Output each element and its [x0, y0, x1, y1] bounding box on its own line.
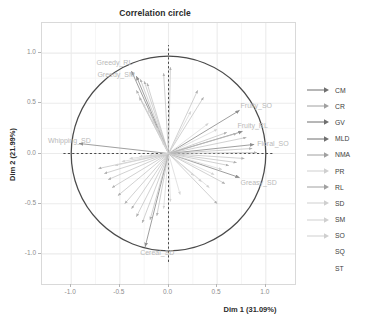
legend-label: PR [330, 168, 344, 175]
x-tick-label: -0.5 [104, 288, 134, 295]
x-tick-label: 0.0 [153, 288, 183, 295]
plot-panel [41, 22, 296, 285]
page-title: Correlation circle [0, 8, 310, 18]
x-tick-label: -1.0 [55, 288, 85, 295]
legend-arrow-icon [306, 198, 330, 208]
vector-arrow [118, 154, 169, 196]
legend-label: RL [330, 184, 344, 191]
vector-arrow [169, 90, 198, 153]
x-tick-mark [168, 284, 169, 287]
legend-item-so[interactable]: SO [306, 228, 384, 244]
legend-label: SO [330, 232, 345, 239]
y-tick-label: 1.0 [10, 48, 36, 55]
legend-arrow-icon [306, 134, 330, 144]
legend-label: MLD [330, 135, 349, 142]
x-tick-label: 1.0 [250, 288, 280, 295]
legend-label: GV [330, 119, 345, 126]
vector-arrow [169, 123, 209, 153]
legend-arrow-icon [306, 150, 330, 160]
y-tick-mark [38, 102, 41, 103]
legend-label: SD [330, 200, 344, 207]
vector-arrow [169, 154, 240, 178]
x-axis-title: Dim 1 (31.09%) [190, 305, 310, 314]
vector-arrow [169, 154, 194, 176]
vector-arrow [104, 154, 168, 174]
legend-item-sq[interactable]: SQ [306, 244, 384, 260]
legend-arrow-icon [306, 101, 330, 111]
y-tick-label: 0.0 [10, 149, 36, 156]
legend-item-pr[interactable]: PR [306, 163, 384, 179]
legend-item-cm[interactable]: CM [306, 82, 384, 98]
legend-label: SM [330, 216, 345, 223]
y-tick-mark [38, 253, 41, 254]
vector-arrow [115, 154, 169, 166]
vector-arrow [79, 143, 169, 153]
legend-label: CR [330, 103, 345, 110]
y-tick-mark [38, 52, 41, 53]
legend-item-cr[interactable]: CR [306, 98, 384, 114]
legend-arrow-icon [306, 215, 330, 225]
y-tick-mark [38, 203, 41, 204]
x-tick-mark [119, 284, 120, 287]
legend-label: CM [330, 87, 346, 94]
y-tick-label: -1.0 [10, 249, 36, 256]
legend-item-st[interactable]: ST [306, 260, 384, 276]
legend-item-nma[interactable]: NMA [306, 147, 384, 163]
y-tick-mark [38, 153, 41, 154]
vector-arrow [142, 154, 168, 223]
legend-label: NMA [330, 151, 350, 158]
x-tick-label: 0.5 [201, 288, 231, 295]
legend-label: ST [330, 265, 344, 272]
vector-arrow [145, 154, 168, 247]
legend-item-mld[interactable]: MLD [306, 131, 384, 147]
legend-arrow-icon [306, 182, 330, 192]
legend-arrow-icon [306, 85, 330, 95]
legend-arrow-icon [306, 231, 330, 241]
legend-item-sd[interactable]: SD [306, 195, 384, 211]
legend-arrow-icon [306, 263, 330, 273]
legend-item-rl[interactable]: RL [306, 179, 384, 195]
x-tick-mark [216, 284, 217, 287]
plot-canvas [42, 23, 295, 284]
legend-label: SQ [330, 248, 345, 255]
y-tick-label: 0.5 [10, 98, 36, 105]
legend: CMCRGVMLDNMAPRRLSDSMSOSQST [306, 82, 384, 276]
legend-item-sm[interactable]: SM [306, 212, 384, 228]
legend-arrow-icon [306, 166, 330, 176]
x-tick-mark [265, 284, 266, 287]
y-tick-label: -0.5 [10, 199, 36, 206]
legend-item-gv[interactable]: GV [306, 114, 384, 130]
vector-arrow [169, 154, 225, 184]
legend-arrow-icon [306, 247, 330, 257]
x-tick-mark [70, 284, 71, 287]
legend-arrow-icon [306, 117, 330, 127]
correlation-circle-figure: Correlation circle Dim 2 (21.99%) Dim 1 … [0, 0, 386, 326]
